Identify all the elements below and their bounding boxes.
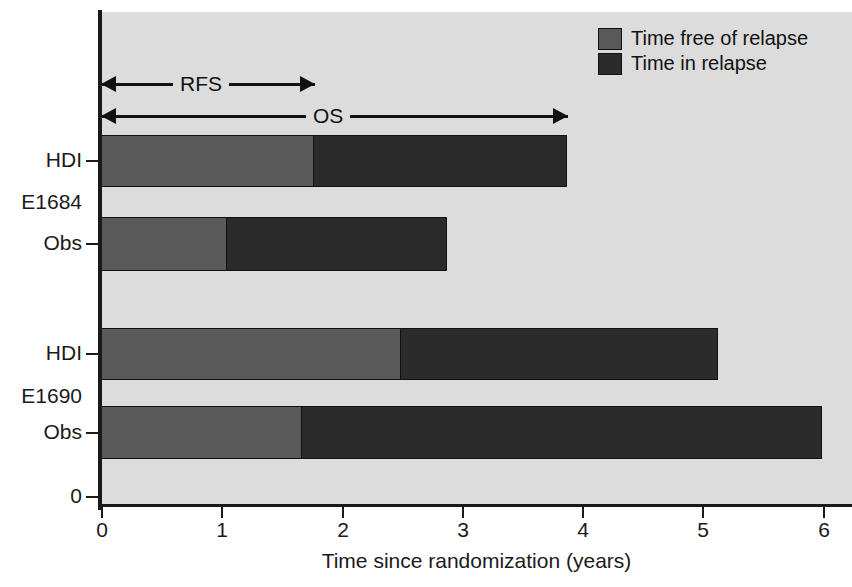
x-tick-2 xyxy=(342,507,344,518)
chart-figure: RFS OS Time free of relapse Time in rela… xyxy=(0,0,852,587)
os-arrow-right-icon xyxy=(553,108,568,124)
x-tick-label-0: 0 xyxy=(82,518,122,542)
group-label-e1684: E1684 xyxy=(21,190,82,214)
x-tick-label-5: 5 xyxy=(683,518,723,542)
y-label-bar2: Obs xyxy=(43,231,82,255)
bar-e1690-hdi-in-relapse xyxy=(400,328,718,380)
y-tick-origin xyxy=(86,496,99,498)
y-tick-bar4 xyxy=(86,432,99,434)
group-label-e1690: E1690 xyxy=(21,384,82,408)
y-axis-line xyxy=(98,10,102,510)
bar-e1684-hdi-in-relapse xyxy=(313,135,567,187)
x-tick-1 xyxy=(221,507,223,518)
x-tick-3 xyxy=(462,507,464,518)
x-axis-line xyxy=(98,504,852,507)
bar-e1690-obs-free-of-relapse xyxy=(101,406,302,459)
legend-swatch-in-relapse xyxy=(598,53,622,75)
bar-e1690-hdi-free-of-relapse xyxy=(101,328,401,380)
y-tick-bar3 xyxy=(86,353,99,355)
bar-e1684-hdi-free-of-relapse xyxy=(101,135,314,187)
x-tick-4 xyxy=(582,507,584,518)
annotation-rfs: RFS xyxy=(101,71,315,97)
y-label-bar1: HDI xyxy=(46,148,82,172)
bar-e1690-obs-in-relapse xyxy=(301,406,822,459)
x-tick-label-3: 3 xyxy=(443,518,483,542)
y-label-bar4: Obs xyxy=(43,420,82,444)
y-label-origin: 0 xyxy=(70,484,82,508)
os-label: OS xyxy=(306,103,350,129)
x-tick-label-6: 6 xyxy=(804,518,844,542)
legend-label-in-relapse: Time in relapse xyxy=(631,52,767,75)
bar-e1684-obs-in-relapse xyxy=(226,217,447,271)
legend-swatch-free-of-relapse xyxy=(598,28,622,50)
x-tick-label-4: 4 xyxy=(563,518,603,542)
x-axis-title: Time since randomization (years) xyxy=(101,549,852,573)
x-tick-label-1: 1 xyxy=(202,518,242,542)
y-tick-bar1 xyxy=(86,160,99,162)
annotation-os: OS xyxy=(101,103,568,129)
x-tick-5 xyxy=(702,507,704,518)
x-tick-0 xyxy=(101,507,103,518)
legend: Time free of relapse Time in relapse xyxy=(598,26,808,76)
bar-e1684-obs-free-of-relapse xyxy=(101,217,227,271)
os-arrow-left-icon xyxy=(101,108,116,124)
legend-item-free-of-relapse: Time free of relapse xyxy=(598,26,808,51)
x-tick-label-2: 2 xyxy=(323,518,363,542)
rfs-arrow-right-icon xyxy=(300,76,315,92)
rfs-arrow-left-icon xyxy=(101,76,116,92)
x-tick-6 xyxy=(823,507,825,518)
legend-label-free-of-relapse: Time free of relapse xyxy=(631,27,808,50)
y-label-bar3: HDI xyxy=(46,341,82,365)
rfs-label: RFS xyxy=(173,71,229,97)
y-tick-bar2 xyxy=(86,243,99,245)
legend-item-in-relapse: Time in relapse xyxy=(598,51,808,76)
